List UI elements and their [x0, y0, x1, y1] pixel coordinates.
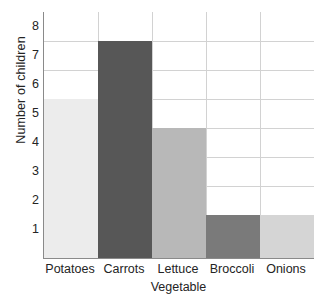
x-tick-label-broccoli: Broccoli: [205, 261, 259, 277]
bar-lettuce[interactable]: [152, 128, 206, 258]
y-tick-label-1: 1: [24, 223, 39, 235]
plot-area: [43, 12, 314, 259]
y-tick-label-5: 5: [24, 107, 39, 119]
x-tick-label-onions: Onions: [259, 261, 313, 277]
bar-chart: Number of children 12345678 PotatoesCarr…: [0, 0, 323, 297]
x-tick-label-carrots: Carrots: [97, 261, 151, 277]
y-axis-tick-labels: 12345678: [24, 12, 39, 258]
y-tick-label-4: 4: [24, 136, 39, 148]
bar-carrots[interactable]: [98, 41, 152, 258]
bar-onions[interactable]: [260, 215, 314, 258]
y-tick-label-6: 6: [24, 78, 39, 90]
y-tick-label-7: 7: [24, 49, 39, 61]
y-tick-label-3: 3: [24, 165, 39, 177]
bar-potatoes[interactable]: [44, 99, 98, 258]
bar-broccoli[interactable]: [206, 215, 260, 258]
x-tick-label-lettuce: Lettuce: [151, 261, 205, 277]
x-axis-tick-labels: PotatoesCarrotsLettuceBroccoliOnions: [43, 261, 314, 279]
x-axis-title: Vegetable: [43, 280, 314, 294]
x-tick-label-potatoes: Potatoes: [43, 261, 97, 277]
y-tick-label-2: 2: [24, 194, 39, 206]
y-tick-label-8: 8: [24, 20, 39, 32]
bars-layer: [44, 12, 314, 258]
